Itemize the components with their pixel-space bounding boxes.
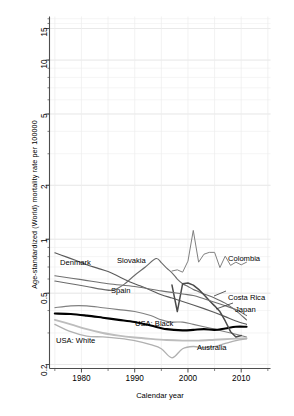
x-tick-1990: 1990 [115, 374, 155, 383]
annotation-usa-black: USA: Black [135, 319, 173, 328]
y-tick-2: 2 [39, 185, 48, 211]
y-tick-0.2: 0.2 [39, 364, 48, 390]
annotation-costa-rica: Costa Rica [228, 293, 265, 302]
y-axis-title: Age-standardized (World) mortality rate … [30, 85, 39, 325]
annotation-colombia: Colombia [228, 254, 260, 263]
x-axis-title: Calendar year [49, 391, 271, 400]
annotation-usa-white: USA: White [56, 336, 95, 345]
annotation-japan: Japan [235, 305, 256, 314]
y-tick-10: 10 [39, 60, 48, 86]
y-tick-1: 1 [39, 239, 48, 265]
x-tick-2000: 2000 [168, 374, 208, 383]
annotation-australia: Australia [197, 343, 227, 352]
annotation-spain: Spain [111, 286, 130, 295]
y-tick-5: 5 [39, 113, 48, 139]
x-tick-2010: 2010 [221, 374, 261, 383]
x-tick-1980: 1980 [61, 374, 101, 383]
series-line-colombia [172, 230, 247, 272]
y-tick-0.5: 0.5 [39, 293, 48, 319]
chart-figure: Age-standardized (World) mortality rate … [0, 0, 294, 416]
annotation-slovakia: Slovakia [117, 256, 146, 265]
annotation-denmark: Denmark [60, 258, 91, 267]
y-tick-15: 15 [39, 28, 48, 54]
